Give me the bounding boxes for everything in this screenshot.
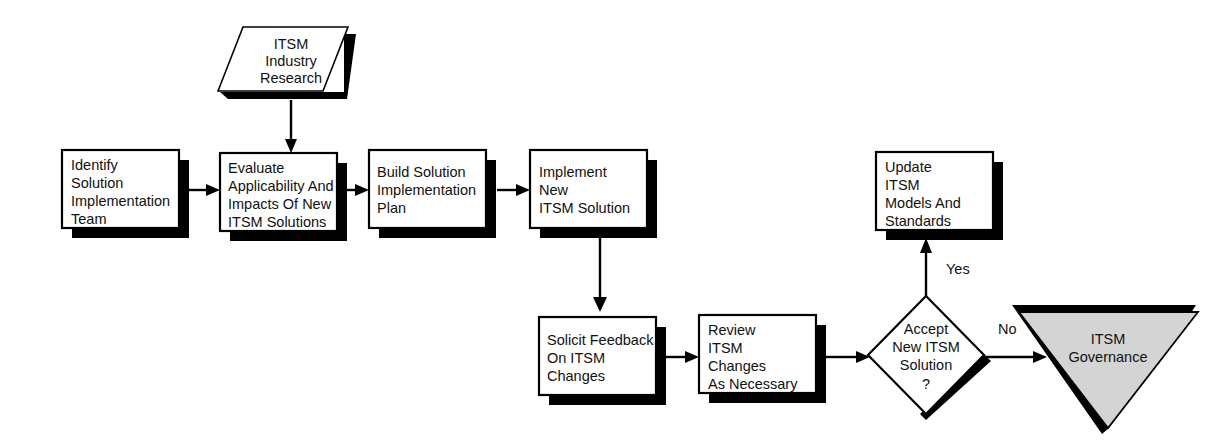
input-research-line-2: Industry	[265, 53, 317, 69]
identify-team-line-4: Team	[71, 211, 106, 227]
solicit-feedback-line-1: Solicit Feedback	[547, 332, 654, 348]
edge-research-to-evaluate	[285, 100, 297, 153]
edge-label-no: No	[998, 321, 1017, 337]
identify-team-line-2: Solution	[71, 175, 123, 191]
flowchart-svg: ITSM Industry Research Identify Solution…	[0, 0, 1232, 447]
node-implement[interactable]: Implement New ITSM Solution	[530, 150, 657, 238]
evaluate-line-3: Impacts Of New	[228, 196, 332, 212]
itsm-governance-line-2: Governance	[1069, 349, 1148, 365]
update-models-line-4: Standards	[885, 213, 951, 229]
node-solicit-feedback[interactable]: Solicit Feedback On ITSM Changes	[539, 317, 666, 405]
review-changes-line-2: ITSM	[708, 340, 743, 356]
update-models-line-3: Models And	[885, 195, 961, 211]
flowchart-canvas: ITSM Industry Research Identify Solution…	[0, 0, 1232, 447]
itsm-governance-shape	[1019, 312, 1198, 428]
update-models-line-2: ITSM	[885, 177, 920, 193]
solicit-feedback-line-2: On ITSM	[547, 350, 605, 366]
node-accept-decision[interactable]: Accept New ITSM Solution ?	[868, 296, 991, 420]
accept-decision-line-4: ?	[922, 376, 930, 392]
node-review-changes[interactable]: Review ITSM Changes As Necessary	[699, 315, 826, 403]
build-plan-line-1: Build Solution	[377, 164, 466, 180]
accept-decision-line-2: New ITSM	[892, 339, 960, 355]
input-research-line-1: ITSM	[274, 36, 309, 52]
evaluate-line-4: ITSM Solutions	[228, 214, 326, 230]
edge-decision-no-to-governance	[984, 351, 1047, 363]
implement-line-3: ITSM Solution	[539, 200, 630, 216]
solicit-feedback-line-3: Changes	[547, 368, 605, 384]
edge-build-to-implement	[497, 184, 530, 196]
review-changes-line-3: Changes	[708, 358, 766, 374]
edge-evaluate-to-build	[344, 184, 369, 196]
node-update-models[interactable]: Update ITSM Models And Standards	[876, 152, 1003, 240]
identify-team-line-1: Identify	[71, 157, 118, 173]
edge-implement-to-solicit	[593, 235, 607, 312]
implement-line-1: Implement	[539, 164, 607, 180]
accept-decision-shape	[868, 296, 984, 414]
evaluate-line-2: Applicability And	[228, 178, 334, 194]
node-build-plan[interactable]: Build Solution Implementation Plan	[369, 150, 496, 238]
edge-review-to-decision	[826, 351, 870, 363]
node-identify-team[interactable]: Identify Solution Implementation Team	[62, 150, 189, 238]
update-models-line-1: Update	[885, 159, 932, 175]
edge-decision-yes-to-update	[920, 238, 932, 300]
node-input-research[interactable]: ITSM Industry Research	[218, 27, 356, 99]
itsm-governance-line-1: ITSM	[1091, 331, 1126, 347]
identify-team-line-3: Implementation	[71, 193, 170, 209]
node-itsm-governance[interactable]: ITSM Governance	[1012, 305, 1198, 434]
accept-decision-line-1: Accept	[904, 321, 948, 337]
evaluate-line-1: Evaluate	[228, 160, 284, 176]
review-changes-line-4: As Necessary	[708, 376, 798, 392]
implement-line-2: New	[539, 182, 569, 198]
review-changes-line-1: Review	[708, 322, 756, 338]
accept-decision-line-3: Solution	[900, 357, 952, 373]
input-research-line-3: Research	[260, 70, 322, 86]
node-evaluate[interactable]: Evaluate Applicability And Impacts Of Ne…	[220, 153, 347, 241]
edge-label-yes: Yes	[946, 261, 970, 277]
edge-identify-to-evaluate	[187, 184, 220, 196]
build-plan-line-2: Implementation	[377, 182, 476, 198]
build-plan-line-3: Plan	[377, 200, 406, 216]
